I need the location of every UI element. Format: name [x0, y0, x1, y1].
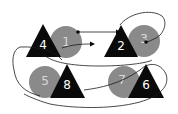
- label-2: 2: [117, 39, 125, 53]
- label-3: 3: [140, 32, 148, 46]
- label-8: 8: [63, 78, 71, 92]
- sequence-diagram: 4 1 2 3 5 8 7 6: [0, 0, 178, 114]
- arrowhead-from-1: [90, 42, 95, 47]
- label-6: 6: [142, 78, 150, 92]
- start-dot: [76, 30, 80, 34]
- end-dot-3: [144, 40, 148, 44]
- label-5: 5: [41, 74, 49, 88]
